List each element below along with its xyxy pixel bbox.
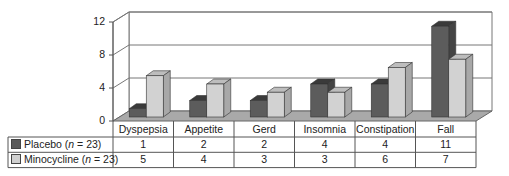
legend-minocycline: Minocycline (n = 23) bbox=[11, 152, 118, 167]
table-cell: 3 bbox=[234, 152, 295, 167]
bar-minocycline bbox=[146, 76, 163, 117]
y-tick-label: 0 bbox=[85, 114, 105, 126]
table-cell: 3 bbox=[295, 152, 356, 167]
table-cell: 7 bbox=[416, 152, 477, 167]
bar-placebo bbox=[129, 109, 146, 117]
bar-side bbox=[405, 63, 412, 118]
category-label: Gerd bbox=[234, 122, 295, 137]
bar-minocycline bbox=[207, 84, 224, 117]
table-cell: 2 bbox=[174, 137, 235, 152]
y-tick-label: 12 bbox=[85, 15, 105, 27]
category-label: Appetite bbox=[174, 122, 235, 137]
category-label: Insomnia bbox=[295, 122, 356, 137]
bar-placebo bbox=[311, 84, 328, 117]
bar-side bbox=[224, 79, 231, 117]
table-cell: 4 bbox=[295, 137, 356, 152]
bar-side bbox=[163, 71, 170, 117]
bar-minocycline bbox=[388, 68, 405, 118]
table-cell: 5 bbox=[113, 152, 174, 167]
legend-swatch bbox=[11, 139, 21, 149]
bar-minocycline bbox=[328, 92, 345, 117]
y-tick-label: 8 bbox=[85, 48, 105, 60]
bar-side bbox=[284, 87, 291, 117]
table-cell: 4 bbox=[174, 152, 235, 167]
bar-placebo bbox=[190, 101, 207, 118]
bar-placebo bbox=[432, 26, 449, 117]
category-label: Dyspepsia bbox=[113, 122, 174, 137]
bar-placebo bbox=[371, 84, 388, 117]
bar-side bbox=[466, 54, 473, 117]
category-label: Fall bbox=[416, 122, 477, 137]
table-cell: 6 bbox=[355, 152, 416, 167]
table-cell: 11 bbox=[416, 137, 477, 152]
bar-placebo bbox=[250, 101, 267, 118]
side-wall bbox=[113, 12, 129, 121]
table-cell: 1 bbox=[113, 137, 174, 152]
table-cell: 4 bbox=[355, 137, 416, 152]
bar-minocycline bbox=[449, 59, 466, 117]
bar-minocycline bbox=[267, 92, 284, 117]
category-label: Constipation bbox=[355, 122, 416, 137]
legend-swatch bbox=[11, 154, 21, 164]
y-tick-label: 4 bbox=[85, 81, 105, 93]
table-cell: 2 bbox=[234, 137, 295, 152]
bar-side bbox=[345, 87, 352, 117]
legend-placebo: Placebo (n = 23) bbox=[11, 137, 101, 152]
